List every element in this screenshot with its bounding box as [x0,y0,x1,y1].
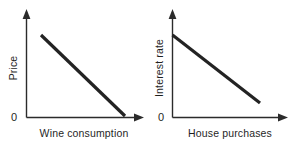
y-axis-label-housing: Interest rate [153,39,165,97]
x-axis-label-housing: House purchases [188,127,272,139]
figure-container: 0 Wine consumption Price 0 House purchas… [0,0,300,149]
origin-label-housing: 0 [158,111,164,123]
chart-panel-wine: 0 Wine consumption Price [0,0,150,149]
x-axis-label-wine: Wine consumption [40,127,129,139]
y-axis-label-wine: Price [7,56,19,81]
origin-label-wine: 0 [11,111,17,123]
chart-panel-housing: 0 House purchases Interest rate [150,0,300,149]
